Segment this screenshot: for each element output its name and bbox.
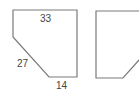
diagram-canvas: 33 27 14 bbox=[0, 0, 139, 93]
partial-polygon-shape bbox=[96, 11, 139, 78]
bottom-edge-label: 14 bbox=[56, 80, 68, 91]
diagonal-edge-label: 27 bbox=[17, 58, 29, 69]
top-edge-label: 33 bbox=[40, 13, 52, 24]
